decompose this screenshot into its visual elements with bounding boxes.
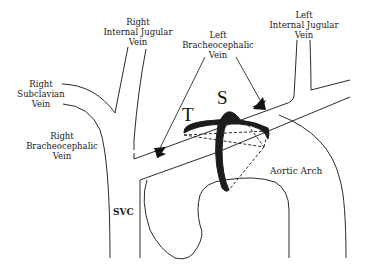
label-line: Vein — [24, 151, 100, 161]
label-line: Vein — [266, 30, 342, 40]
label-line: Right — [24, 131, 100, 141]
label-line: Vein — [180, 50, 256, 60]
label-line: Right — [100, 17, 176, 27]
label-svc: SVC — [113, 207, 134, 217]
label-line: Internal Jugular — [100, 27, 176, 37]
label-line: Internal Jugular — [266, 20, 342, 30]
label-line: Vein — [14, 99, 68, 109]
lbv-leader-left — [160, 57, 205, 148]
label-line: Left — [180, 30, 256, 40]
label-line: Bracheocephalic — [24, 141, 100, 151]
right-internal-jugular-left-wall — [115, 47, 128, 113]
label-right-bracheocephalic-vein: Right Bracheocephalic Vein — [24, 131, 100, 161]
label-right-subclavian-vein: Right Subclavian Vein — [14, 79, 68, 109]
lbv-leader-right — [236, 57, 260, 100]
label-line: Vein — [100, 37, 176, 47]
heart-outline — [144, 180, 225, 259]
right-subclavian-bottom-wall — [63, 104, 110, 258]
aortic-arch-inner — [225, 178, 289, 258]
label-line: Bracheocephalic — [180, 40, 256, 50]
marker-t: T — [182, 104, 194, 126]
label-aortic-arch: Aortic Arch — [270, 166, 322, 176]
label-right-internal-jugular-vein: Right Internal Jugular Vein — [100, 17, 176, 47]
label-line: Subclavian — [14, 89, 68, 99]
right-subclavian-top-wall — [62, 84, 115, 113]
label-line: Left — [266, 10, 342, 20]
left-internal-jugular-right-wall — [310, 40, 350, 90]
label-line: Right — [14, 79, 68, 89]
label-left-bracheocephalic-vein: Left Bracheocephalic Vein — [180, 30, 256, 60]
marker-s: S — [217, 87, 228, 109]
label-left-internal-jugular-vein: Left Internal Jugular Vein — [266, 10, 342, 40]
right-internal-jugular-right-wall — [134, 49, 146, 150]
